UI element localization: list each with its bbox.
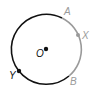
circle-diagram: O A X B Y [0, 0, 96, 95]
label-x: X [81, 30, 89, 41]
label-o: O [36, 48, 44, 59]
label-y: Y [9, 70, 17, 81]
label-a: A [63, 6, 71, 17]
point-x [76, 33, 80, 37]
minor-arc-axb [62, 18, 81, 76]
point-y [17, 69, 21, 73]
center-point-o [44, 47, 48, 51]
label-b: B [70, 76, 77, 87]
